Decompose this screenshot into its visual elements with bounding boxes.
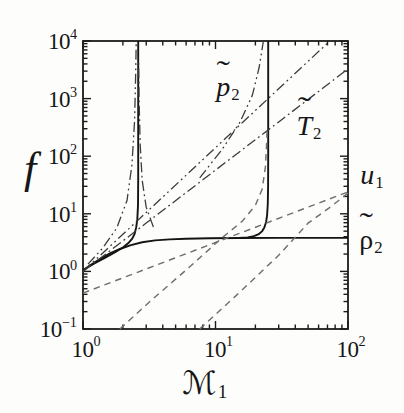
curve-label-p2: ˜p2 — [216, 73, 239, 101]
y-tick-label-1e1: 101 — [48, 201, 77, 226]
curve-label-u1-letter: u — [360, 159, 374, 190]
x-axis-label: ℳ1 — [183, 367, 228, 399]
x-axis-label-letter: ℳ — [183, 364, 217, 402]
y-tick-label-1e-1: 10−1 — [40, 317, 77, 342]
curve-label-u1-subscript: 1 — [375, 173, 383, 192]
y-tick-label-1e4: 104 — [48, 29, 77, 54]
curve-label-p2-subscript: 2 — [231, 85, 239, 104]
curve-label-rho2-subscript: 2 — [374, 238, 382, 257]
curve-label-u1: u1 — [360, 161, 383, 189]
curve-label-T2: ˜T2 — [297, 112, 322, 140]
x-tick-label-1e2: 102 — [336, 336, 365, 361]
y-axis-label-letter: f — [24, 144, 36, 193]
y-tick-label-1e0: 100 — [48, 259, 77, 284]
x-tick-label-1e1: 101 — [204, 336, 233, 361]
y-axis-label: f — [24, 147, 36, 191]
curve-label-rho2: ˜ρ2 — [359, 226, 382, 254]
y-tick-label-1e3: 103 — [48, 86, 77, 111]
figure-root: 10010110210−1100101102103104˜p2˜T2u1˜ρ2f… — [0, 0, 404, 413]
curve-label-T2-subscript: 2 — [313, 124, 321, 143]
x-axis-label-subscript: 1 — [218, 381, 228, 402]
y-tick-label-1e2: 102 — [48, 144, 77, 169]
label-overlay: 10010110210−1100101102103104˜p2˜T2u1˜ρ2f… — [0, 0, 404, 413]
